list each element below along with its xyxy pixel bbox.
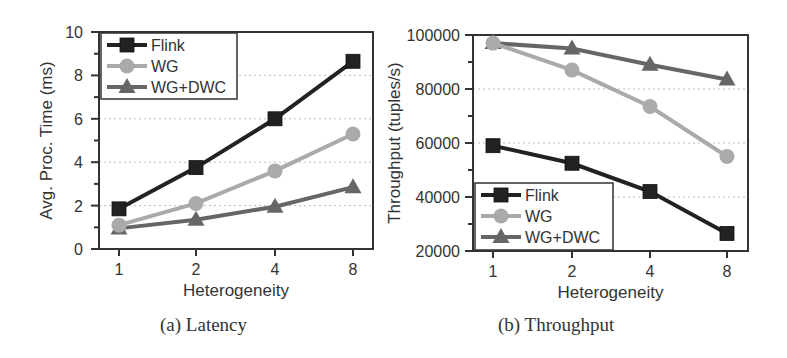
x-tick-label: 2	[568, 263, 577, 280]
square-marker	[565, 156, 579, 170]
triangle-marker	[345, 178, 362, 193]
x-tick-label: 8	[349, 261, 358, 278]
x-tick-label: 1	[489, 263, 498, 280]
caption-throughput: (b) Throughput	[498, 314, 614, 336]
y-axis-label: Avg. Proc. Time (ms)	[37, 61, 56, 219]
square-marker	[189, 161, 203, 175]
latency-plot: 02468101248HeterogeneityAvg. Proc. Time …	[37, 24, 373, 300]
y-tick-label: 20000	[416, 243, 461, 260]
circle-marker	[643, 99, 658, 114]
y-tick-label: 8	[74, 67, 83, 84]
square-marker	[112, 202, 126, 216]
legend-square-icon	[120, 38, 134, 52]
square-marker	[486, 139, 500, 153]
x-tick-label: 1	[115, 261, 124, 278]
legend: FlinkWGWG+DWC	[101, 33, 237, 99]
square-marker	[346, 54, 360, 68]
legend-label: WG	[151, 58, 179, 75]
y-tick-label: 6	[74, 111, 83, 128]
series-line-wg-dwc	[493, 43, 727, 79]
series-line-wg-dwc	[119, 187, 353, 228]
x-tick-label: 4	[271, 261, 280, 278]
legend-label: Flink	[151, 37, 186, 54]
square-marker	[268, 112, 282, 126]
figure: 02468101248HeterogeneityAvg. Proc. Time …	[0, 0, 787, 358]
y-tick-label: 100000	[407, 27, 460, 44]
circle-marker	[720, 149, 735, 164]
x-axis-label: Heterogeneity	[558, 283, 664, 302]
caption-latency: (a) Latency	[160, 314, 247, 336]
legend-label: Flink	[525, 187, 560, 204]
latency-chart: 02468101248HeterogeneityAvg. Proc. Time …	[0, 0, 787, 358]
x-tick-label: 4	[646, 263, 655, 280]
x-tick-label: 8	[723, 263, 732, 280]
legend-circle-icon	[120, 59, 135, 74]
x-axis-label: Heterogeneity	[183, 281, 289, 300]
circle-marker	[189, 196, 204, 211]
y-tick-label: 2	[74, 198, 83, 215]
legend-label: WG+DWC	[151, 79, 226, 96]
y-tick-label: 80000	[416, 81, 461, 98]
series-line-wg	[493, 43, 727, 156]
x-tick-label: 2	[192, 261, 201, 278]
circle-marker	[346, 126, 361, 141]
legend-square-icon	[494, 188, 508, 202]
y-tick-label: 0	[74, 241, 83, 258]
circle-marker	[112, 218, 127, 233]
legend: FlinkWGWG+DWC	[475, 183, 613, 250]
legend-label: WG	[525, 208, 553, 225]
legend-circle-icon	[494, 209, 509, 224]
y-tick-label: 40000	[416, 189, 461, 206]
circle-marker	[565, 63, 580, 78]
y-tick-label: 60000	[416, 135, 461, 152]
circle-marker	[486, 36, 501, 51]
throughput-plot: 200004000060000800001000001248Heterogene…	[385, 27, 748, 302]
y-tick-label: 4	[74, 154, 83, 171]
y-axis-label: Throughput (tuples/s)	[385, 62, 404, 224]
square-marker	[643, 185, 657, 199]
y-tick-label: 10	[65, 24, 83, 41]
square-marker	[720, 226, 734, 240]
circle-marker	[268, 163, 283, 178]
legend-label: WG+DWC	[525, 229, 600, 246]
